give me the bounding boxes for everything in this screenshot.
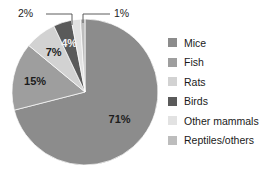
pie-slice-group: [12, 19, 158, 165]
pie-chart-canvas: 71%15%7%4% 2% 1%: [0, 0, 168, 178]
legend-label-other-mammals: Other mammals: [184, 116, 259, 127]
legend-label-reptiles-others: Reptiles/others: [184, 135, 254, 146]
chart-legend: Mice Fish Rats Birds Other mammals Repti…: [168, 33, 272, 150]
pie-value-label-rats: 7%: [46, 46, 62, 58]
callout-label-reptiles-others: 1%: [114, 7, 129, 19]
legend-item-fish[interactable]: Fish: [168, 53, 272, 73]
callout-label-other-mammals: 2%: [18, 7, 33, 19]
pie-value-label-fish: 15%: [24, 75, 46, 87]
pie-chart-figure: 71%15%7%4% 2% 1% Mice Fish Rats Birds Ot…: [0, 0, 272, 178]
legend-swatch-mice: [168, 38, 177, 47]
pie-value-label-birds: 4%: [61, 37, 77, 49]
legend-label-fish: Fish: [184, 57, 204, 68]
legend-label-birds: Birds: [184, 96, 208, 107]
legend-swatch-reptiles-others: [168, 136, 177, 145]
legend-swatch-rats: [168, 77, 177, 86]
pie-value-label-mice: 71%: [109, 113, 131, 125]
legend-item-reptiles-others[interactable]: Reptiles/others: [168, 131, 272, 151]
legend-swatch-fish: [168, 58, 177, 67]
legend-swatch-birds: [168, 97, 177, 106]
legend-item-mice[interactable]: Mice: [168, 33, 272, 53]
legend-item-rats[interactable]: Rats: [168, 72, 272, 92]
legend-item-other-mammals[interactable]: Other mammals: [168, 111, 272, 131]
legend-item-birds[interactable]: Birds: [168, 92, 272, 112]
legend-label-rats: Rats: [184, 77, 206, 88]
legend-swatch-other-mammals: [168, 116, 177, 125]
legend-label-mice: Mice: [184, 38, 206, 49]
